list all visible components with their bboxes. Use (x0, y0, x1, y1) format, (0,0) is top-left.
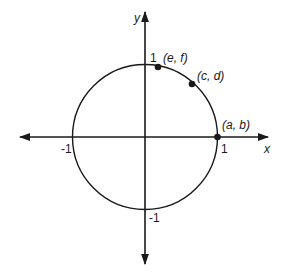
x-axis-label: x (263, 142, 271, 156)
label-c-d: (c, d) (197, 69, 224, 83)
label-a-b: (a, b) (222, 118, 250, 132)
tick-x-pos: 1 (221, 142, 228, 156)
unit-circle-diagram: y x 1 -1 1 -1 (a, b) (c, d) (e, f) (0, 0, 281, 275)
tick-x-neg: -1 (61, 142, 72, 156)
y-axis-label: y (133, 11, 141, 25)
tick-y-neg: -1 (149, 211, 160, 225)
tick-y-pos: 1 (150, 51, 157, 65)
label-e-f: (e, f) (163, 51, 188, 65)
point-c-d (189, 81, 196, 88)
point-a-b (214, 134, 221, 141)
diagram-canvas: y x 1 -1 1 -1 (a, b) (c, d) (e, f) (0, 0, 281, 275)
